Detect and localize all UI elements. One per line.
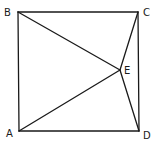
- segment-de: [120, 70, 139, 131]
- point-label-a: A: [6, 128, 13, 139]
- segment-ce: [120, 12, 138, 70]
- point-label-e: E: [124, 65, 130, 76]
- point-label-b: B: [4, 7, 11, 18]
- geometry-diagram: ABCDE: [0, 0, 158, 145]
- segment-cd: [138, 12, 139, 131]
- segment-ab: [18, 12, 19, 131]
- point-label-d: D: [143, 130, 151, 141]
- segment-be: [18, 12, 120, 70]
- point-label-c: C: [143, 7, 150, 18]
- segment-ae: [19, 70, 120, 131]
